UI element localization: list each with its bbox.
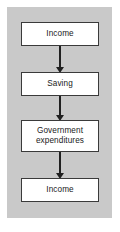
down-arrow-icon [59,46,61,67]
flow-node-label: Government expenditures [34,126,86,146]
flow-node-income-bottom: Income [21,178,99,202]
flow-node-saving: Saving [21,72,99,96]
flow-node-label: Income [44,29,75,39]
flow-stack: Income Saving Government expenditures In… [0,0,120,232]
flow-diagram-figure: Income Saving Government expenditures In… [0,0,120,232]
down-arrow-icon [59,152,61,173]
flow-node-label: Income [44,185,75,195]
down-arrow-icon [59,96,61,115]
flow-node-income-top: Income [21,22,99,46]
flow-node-government-expenditures: Government expenditures [21,120,99,152]
flow-node-label: Saving [45,79,75,89]
